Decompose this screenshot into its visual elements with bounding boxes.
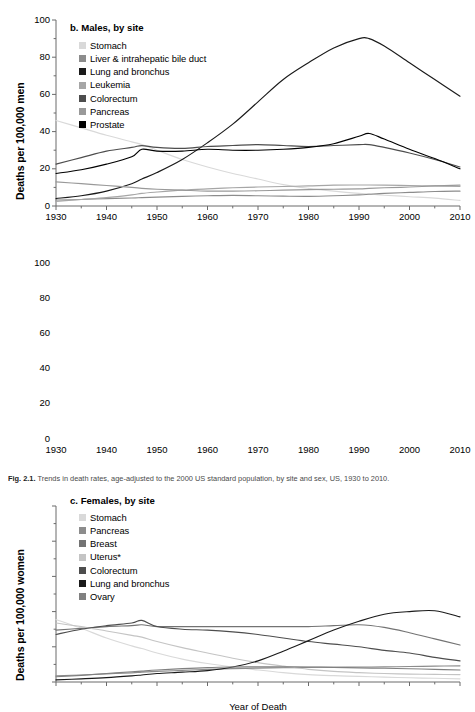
legend-item: Colorectum: [79, 92, 206, 105]
x-axis-tick-label: 1940: [90, 211, 124, 222]
y-axis-tick-label: 100: [24, 257, 50, 268]
x-axis-tick-label: 2000: [393, 211, 427, 222]
legend-swatch-icon: [79, 580, 86, 587]
x-axis-tick-label: 1930: [39, 211, 73, 222]
legend-swatch-icon: [79, 540, 86, 547]
legend-item: Pancreas: [79, 105, 206, 118]
y-axis-label-females: Deaths per 100,000 women: [14, 549, 26, 681]
legend-swatch-icon: [79, 567, 86, 574]
legend-item-label: Prostate: [90, 120, 125, 129]
y-axis-ticks: [52, 20, 56, 206]
figure-caption-text: Trends in death rates, age-adjusted to t…: [37, 474, 389, 483]
x-axis-ticks: [56, 206, 460, 210]
legend-swatch-icon: [79, 527, 86, 534]
x-axis-tick-label: 2000: [393, 444, 427, 455]
legend-swatch-icon: [79, 68, 86, 75]
legend-item: Prostate: [79, 118, 206, 131]
legend-item-label: Colorectum: [90, 94, 137, 103]
legend-swatch-icon: [79, 95, 86, 102]
y-axis-tick-label: 40: [24, 362, 50, 373]
x-axis-tick-label: 1950: [140, 444, 174, 455]
legend-swatch-icon: [79, 554, 86, 561]
legend-swatch-icon: [79, 514, 86, 521]
legend-item: Lung and bronchus: [79, 577, 169, 590]
x-axis-tick-label: 1990: [342, 444, 376, 455]
legend-item-label: Lung and bronchus: [90, 579, 169, 588]
y-axis-tick-label: 60: [24, 327, 50, 338]
legend-females: StomachPancreasBreastUterus*ColorectumLu…: [79, 511, 169, 603]
legend-item-label: Lung and bronchus: [90, 67, 169, 76]
legend-item: Ovary: [79, 590, 169, 603]
legend-item-label: Colorectum: [90, 566, 137, 575]
y-axis-tick-label: 40: [24, 125, 50, 136]
x-axis-tick-label: 2010: [443, 211, 475, 222]
x-axis-tick-label: 1960: [191, 444, 225, 455]
y-axis-tick-label: 20: [24, 397, 50, 408]
series-line: [56, 620, 460, 679]
legend-swatch-icon: [79, 108, 86, 115]
legend-item: Uterus*: [79, 551, 169, 564]
series-line: [56, 144, 460, 167]
figure-caption: Fig. 2.1. Trends in death rates, age-adj…: [8, 474, 470, 486]
legend-item: Liver & intrahepatic bile duct: [79, 52, 206, 65]
legend-item-label: Breast: [90, 539, 117, 548]
panel-title-females: c. Females, by site: [70, 495, 155, 506]
y-axis-label-males: Deaths per 100,000 men: [14, 83, 26, 200]
y-axis-tick-label: 80: [24, 51, 50, 62]
legend-item: Lung and bronchus: [79, 65, 206, 78]
x-axis-tick-label: 1930: [39, 444, 73, 455]
legend-swatch-icon: [79, 55, 86, 62]
legend-item-label: Ovary: [90, 592, 115, 601]
legend-item: Stomach: [79, 511, 169, 524]
x-axis-tick-label: 1960: [191, 211, 225, 222]
x-axis-title: Year of Death: [56, 701, 460, 712]
x-axis-tick-label: 1970: [241, 444, 275, 455]
legend-item: Pancreas: [79, 524, 169, 537]
legend-item-label: Stomach: [90, 513, 127, 522]
legend-item: Colorectum: [79, 564, 169, 577]
y-axis-tick-label: 0: [24, 200, 50, 211]
x-axis-tick-label: 1990: [342, 211, 376, 222]
legend-item-label: Uterus*: [90, 552, 121, 561]
x-axis-tick-label: 1940: [90, 444, 124, 455]
legend-swatch-icon: [79, 121, 86, 128]
legend-item-label: Liver & intrahepatic bile duct: [90, 54, 206, 63]
y-axis-tick-label: 100: [24, 14, 50, 25]
x-axis-ticks: [56, 682, 460, 686]
x-axis-tick-label: 1970: [241, 211, 275, 222]
legend-item: Breast: [79, 537, 169, 550]
panel-title-males: b. Males, by site: [70, 22, 144, 33]
legend-item-label: Pancreas: [90, 107, 129, 116]
x-axis-tick-label: 2010: [443, 444, 475, 455]
y-axis-tick-label: 80: [24, 292, 50, 303]
legend-item-label: Leukemia: [90, 80, 130, 89]
legend-swatch-icon: [79, 82, 86, 89]
legend-item: Leukemia: [79, 79, 206, 92]
panel-males: Deaths per 100,000 men b. Males, by site…: [0, 0, 475, 243]
figure-caption-label: Fig. 2.1.: [8, 474, 36, 483]
legend-males: StomachLiver & intrahepatic bile ductLun…: [79, 39, 206, 131]
x-axis-tick-label: 1950: [140, 211, 174, 222]
y-axis-tick-label: 20: [24, 162, 50, 173]
y-axis-ticks: [52, 506, 56, 682]
series-line: [56, 133, 460, 173]
legend-swatch-icon: [79, 42, 86, 49]
x-axis-tick-label: 1980: [292, 211, 326, 222]
panel-females: Deaths per 100,000 women c. Females, by …: [0, 243, 475, 465]
y-axis-tick-label: 0: [24, 433, 50, 444]
x-axis-tick-label: 1980: [292, 444, 326, 455]
legend-item: Stomach: [79, 39, 206, 52]
legend-item-label: Pancreas: [90, 526, 129, 535]
legend-swatch-icon: [79, 593, 86, 600]
y-axis-tick-label: 60: [24, 88, 50, 99]
legend-item-label: Stomach: [90, 41, 127, 50]
